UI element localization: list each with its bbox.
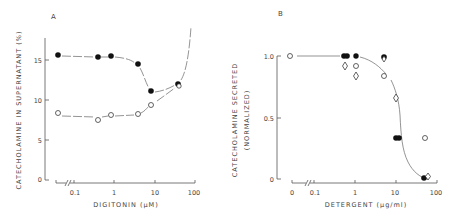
panel-b-ytick-1.0: 1.0 xyxy=(264,53,274,61)
panel-a-xtick-100: 100 xyxy=(188,189,200,197)
panel-b-ytick-0.5: 0.5 xyxy=(264,115,274,123)
panel-b-ytick-0: 0 xyxy=(270,176,274,184)
panel-b-open-circles xyxy=(288,54,428,141)
panel-a-ytick-15: 15 xyxy=(34,57,42,65)
panel-b-ylabel-line2: (NORMALIZED) xyxy=(243,90,251,151)
panel-a-filled-curve xyxy=(62,27,191,92)
panel-a: A 0 5 10 15 CATECHOLAMINE IN SUPERNATANT… xyxy=(15,13,200,209)
panel-a-xtick-1: 1 xyxy=(112,189,116,197)
panel-b-xtick-10: 10 xyxy=(391,189,399,197)
panel-a-label: A xyxy=(51,13,56,21)
panel-b-fit-curve xyxy=(297,56,427,179)
panel-a-xtick-0.1: 0.1 xyxy=(70,189,80,197)
panel-a-xtick-10: 10 xyxy=(151,189,159,197)
panel-a-ylabel: CATECHOLAMINE IN SUPERNATANT (%) xyxy=(15,30,23,189)
panel-b-label: B xyxy=(278,10,283,18)
panel-a-ytick-10: 10 xyxy=(34,97,42,105)
figure: A 0 5 10 15 CATECHOLAMINE IN SUPERNATANT… xyxy=(0,0,451,216)
panel-a-ytick-0: 0 xyxy=(38,176,42,184)
panel-b-xtick-0: 0 xyxy=(290,189,294,197)
panel-a-filled-points xyxy=(55,52,181,94)
panel-a-ytick-5: 5 xyxy=(38,137,42,145)
panel-b-open-diamonds xyxy=(343,56,431,180)
panel-a-xlabel: DIGITONIN (µM) xyxy=(93,201,159,209)
panel-b-xtick-1: 1 xyxy=(353,189,357,197)
panel-b-xtick-0.1: 0.1 xyxy=(310,189,320,197)
panel-b-ylabel-line1: CATECHOLAMINE SECRETED xyxy=(231,63,239,177)
panel-b: B 1.0 0.5 0 CATECHOLAMINE SECRETED (NORM… xyxy=(231,10,442,209)
panel-b-filled-points xyxy=(341,53,427,181)
panel-a-open-curve xyxy=(62,88,175,117)
panel-b-xlabel: DETERGENT (µg/ml) xyxy=(325,201,407,209)
panel-b-xtick-100: 100 xyxy=(430,189,442,197)
